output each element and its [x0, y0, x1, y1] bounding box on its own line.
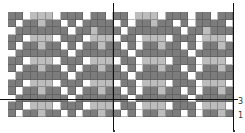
grid-cell: [38, 50, 46, 58]
grid-cell: [16, 27, 24, 35]
grid-cell: [23, 27, 31, 35]
grid-cell: [136, 20, 144, 28]
grid-cell: [166, 12, 174, 20]
grid-cell: [91, 87, 99, 95]
grid-cell: [83, 72, 91, 80]
grid-cell: [83, 50, 91, 58]
grid-cell: [196, 12, 204, 20]
grid-cell: [196, 80, 204, 88]
grid-cell: [128, 50, 136, 58]
grid-cell: [128, 72, 136, 80]
grid-cell: [68, 65, 76, 73]
grid-cell: [83, 87, 91, 95]
grid-cell: [91, 65, 99, 73]
grid-cell: [106, 12, 114, 20]
grid-cell: [181, 20, 189, 28]
grid-cell: [38, 42, 46, 50]
grid-cell: [188, 27, 196, 35]
grid-cell: [83, 27, 91, 35]
grid-cell: [106, 102, 114, 110]
grid-cell: [91, 12, 99, 20]
grid-cell: [211, 42, 219, 50]
grid-cell: [31, 35, 39, 43]
grid-cell: [143, 65, 151, 73]
grid-cell: [98, 35, 106, 43]
grid-cell: [128, 42, 136, 50]
grid-cell: [76, 72, 84, 80]
grid-cell: [181, 80, 189, 88]
grid-cell: [151, 87, 159, 95]
grid-cell: [143, 50, 151, 58]
grid-cell: [121, 42, 129, 50]
grid-cell: [173, 12, 181, 20]
grid-cell: [128, 80, 136, 88]
grid-cell: [61, 57, 69, 65]
grid-cell: [31, 87, 39, 95]
grid-cell: [173, 110, 181, 118]
grid-cell: [166, 20, 174, 28]
grid-cell: [166, 65, 174, 73]
grid-cell: [166, 80, 174, 88]
grid-cell: [158, 80, 166, 88]
grid-cell: [218, 27, 226, 35]
grid-cell: [8, 12, 16, 20]
grid-cell: [136, 80, 144, 88]
grid-cell: [38, 57, 46, 65]
grid-cell: [76, 80, 84, 88]
grid-cell: [211, 27, 219, 35]
grid-cell: [211, 102, 219, 110]
grid-cell: [211, 80, 219, 88]
grid-cell: [196, 110, 204, 118]
grid-cell: [143, 57, 151, 65]
grid-cell: [166, 72, 174, 80]
grid-cell: [46, 110, 54, 118]
grid-cell: [91, 110, 99, 118]
grid-cell: [91, 42, 99, 50]
grid-cell: [226, 72, 234, 80]
grid-cell: [53, 12, 61, 20]
grid-cell: [68, 42, 76, 50]
grid-cell: [31, 20, 39, 28]
grid-cell: [143, 42, 151, 50]
grid-cell: [196, 87, 204, 95]
grid-cell: [23, 42, 31, 50]
grid-cell: [136, 110, 144, 118]
weave-grid: [8, 12, 233, 117]
grid-cell: [46, 102, 54, 110]
grid-cell: [91, 72, 99, 80]
grid-cell: [151, 80, 159, 88]
grid-cell: [151, 50, 159, 58]
grid-cell: [53, 57, 61, 65]
grid-cell: [128, 57, 136, 65]
grid-cell: [8, 35, 16, 43]
grid-cell: [16, 102, 24, 110]
grid-cell: [188, 72, 196, 80]
grid-cell: [76, 20, 84, 28]
grid-cell: [128, 65, 136, 73]
grid-cell: [181, 35, 189, 43]
grid-cell: [61, 72, 69, 80]
grid-cell: [151, 35, 159, 43]
grid-cell: [181, 50, 189, 58]
grid-cell: [128, 87, 136, 95]
grid-cell: [226, 27, 234, 35]
grid-cell: [158, 87, 166, 95]
grid-cell: [8, 87, 16, 95]
grid-cell: [53, 72, 61, 80]
grid-cell: [76, 57, 84, 65]
grid-cell: [143, 72, 151, 80]
grid-cell: [8, 27, 16, 35]
grid-cell: [23, 20, 31, 28]
grid-cell: [98, 50, 106, 58]
grid-cell: [121, 50, 129, 58]
grid-cell: [181, 65, 189, 73]
grid-cell: [76, 50, 84, 58]
grid-cell: [166, 87, 174, 95]
grid-cell: [166, 57, 174, 65]
grid-cell: [61, 65, 69, 73]
grid-cell: [158, 12, 166, 20]
grid-cell: [61, 110, 69, 118]
grid-cell: [23, 57, 31, 65]
grid-cell: [128, 35, 136, 43]
grid-cell: [76, 35, 84, 43]
